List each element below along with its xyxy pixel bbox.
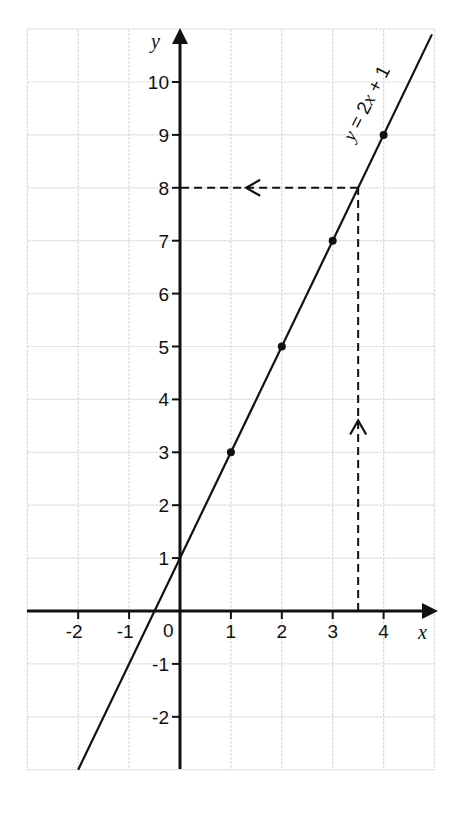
y-tick-label: 6: [158, 284, 169, 305]
y-tick-label: 9: [158, 125, 169, 146]
data-point: [278, 343, 286, 351]
x-tick-label: -1: [117, 621, 134, 642]
data-point: [380, 131, 388, 139]
y-tick-label: 1: [158, 548, 169, 569]
grid: [27, 29, 434, 770]
y-tick-label: 3: [158, 442, 169, 463]
data-point: [227, 448, 235, 456]
x-tick-label: 3: [327, 621, 338, 642]
x-tick-label: 1: [226, 621, 237, 642]
x-tick-label: -2: [66, 621, 83, 642]
y-axis-label: y: [149, 30, 160, 53]
y-tick-label: -2: [152, 707, 169, 728]
y-tick-label: -1: [152, 654, 169, 675]
series-line: [78, 34, 432, 769]
dashed-annotations: [180, 180, 366, 611]
x-axis-label: x: [417, 621, 427, 643]
x-axis-arrow-icon: [422, 603, 438, 619]
y-tick-label: 4: [158, 389, 169, 410]
y-tick-label: 7: [158, 231, 169, 252]
y-tick-label: 2: [158, 495, 169, 516]
x-tick-label: 2: [277, 621, 288, 642]
axes: -2-11234 -2-112345678910 x y 0: [27, 28, 438, 769]
origin-label: 0: [163, 620, 174, 641]
x-tick-label: 4: [378, 621, 389, 642]
y-axis-arrow-icon: [172, 28, 188, 44]
y-tick-label: 10: [148, 72, 169, 93]
y-tick-label: 8: [158, 178, 169, 199]
linear-graph-chart: -2-11234 -2-112345678910 x y 0 y = 2x + …: [0, 0, 467, 821]
line-y-equals-2x-plus-1: [78, 34, 432, 769]
data-point: [329, 237, 337, 245]
y-tick-label: 5: [158, 337, 169, 358]
x-ticks: -2-11234: [66, 611, 390, 642]
